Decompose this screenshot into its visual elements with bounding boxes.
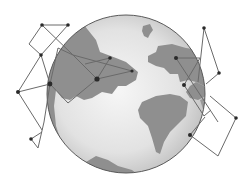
- globe-network-illustration: [0, 0, 251, 188]
- network-node: [188, 133, 192, 137]
- network-node: [29, 137, 33, 141]
- network-node: [130, 69, 133, 72]
- network-node: [202, 26, 206, 30]
- globe: [40, 15, 214, 180]
- network-node: [66, 23, 70, 27]
- network-node: [16, 90, 20, 94]
- network-node: [234, 116, 238, 120]
- network-node: [94, 76, 99, 81]
- network-node: [174, 56, 178, 60]
- network-node: [108, 56, 112, 60]
- network-node: [39, 53, 43, 57]
- network-node: [48, 82, 53, 87]
- network-node: [182, 83, 186, 87]
- network-node: [40, 23, 44, 27]
- network-node: [217, 71, 221, 75]
